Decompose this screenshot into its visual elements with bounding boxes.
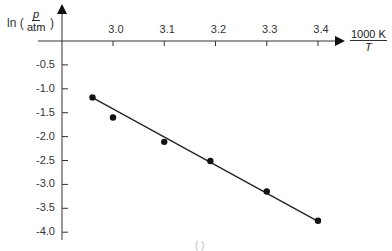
x-label-numerator: 1000 K [350,28,387,41]
y-axis-label-fraction: p atm [27,8,45,33]
y-axis-label-suffix: ) [50,16,54,30]
y-tick-label: -0.5 [15,58,55,70]
data-point [315,218,321,224]
data-point [207,158,213,164]
y-tick-label: -4.0 [15,225,55,237]
y-axis-label-prefix: ln ( [7,16,24,30]
y-label-numerator: p [32,8,40,21]
x-tick-label: 3.1 [152,23,182,35]
y-tick-label: -3.0 [15,177,55,189]
data-point [89,94,95,100]
y-tick-label: -3.5 [15,201,55,213]
y-tick-label: -2.5 [15,154,55,166]
y-tick-label: -1.5 [15,106,55,118]
x-tick-label: 3.3 [255,23,285,35]
data-point [110,114,116,120]
x-tick-marks [113,41,318,46]
x-label-denominator: T [365,41,372,53]
fit-line [92,97,319,221]
y-label-denominator: atm [27,21,45,33]
x-tick-label: 3.4 [306,23,336,35]
x-axis-label-fraction: 1000 K T [350,28,387,53]
y-tick-label: -1.0 [15,82,55,94]
x-tick-label: 3.2 [204,23,234,35]
data-point [264,188,270,194]
y-axis-arrow-icon [57,4,67,14]
cut-off-annotation: ( ) [195,240,204,251]
y-tick-marks [62,65,68,232]
y-tick-label: -2.0 [15,130,55,142]
x-axis-arrow-icon [335,36,345,46]
data-point [161,139,167,145]
x-tick-label: 3.0 [101,23,131,35]
